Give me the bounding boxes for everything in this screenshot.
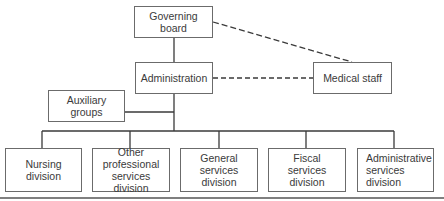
auxiliary-groups-box: Auxiliary groups (48, 90, 125, 122)
fiscal-services-division-box: Fiscal services division (268, 148, 346, 192)
nursing-division-box: Nursing division (5, 148, 82, 192)
general-services-division-label: General services division (200, 152, 239, 188)
administration-label: Administration (141, 72, 208, 84)
auxiliary-groups-label: Auxiliary groups (67, 94, 107, 118)
governing-board-box: Governing board (134, 6, 213, 38)
nursing-division-label: Nursing division (25, 158, 61, 182)
governing-board-label: Governing board (135, 10, 212, 34)
other-professional-services-label: Other professional services division (93, 146, 169, 194)
general-services-division-box: General services division (180, 148, 258, 192)
fiscal-services-division-label: Fiscal services division (288, 152, 327, 188)
other-professional-services-box: Other professional services division (92, 148, 170, 192)
medical-staff-label: Medical staff (323, 72, 382, 84)
administration-box: Administration (135, 62, 213, 94)
medical-staff-box: Medical staff (313, 62, 392, 94)
administrative-services-division-label: Administrative services division (366, 152, 432, 188)
administrative-services-division-box: Administrative services division (357, 148, 434, 192)
